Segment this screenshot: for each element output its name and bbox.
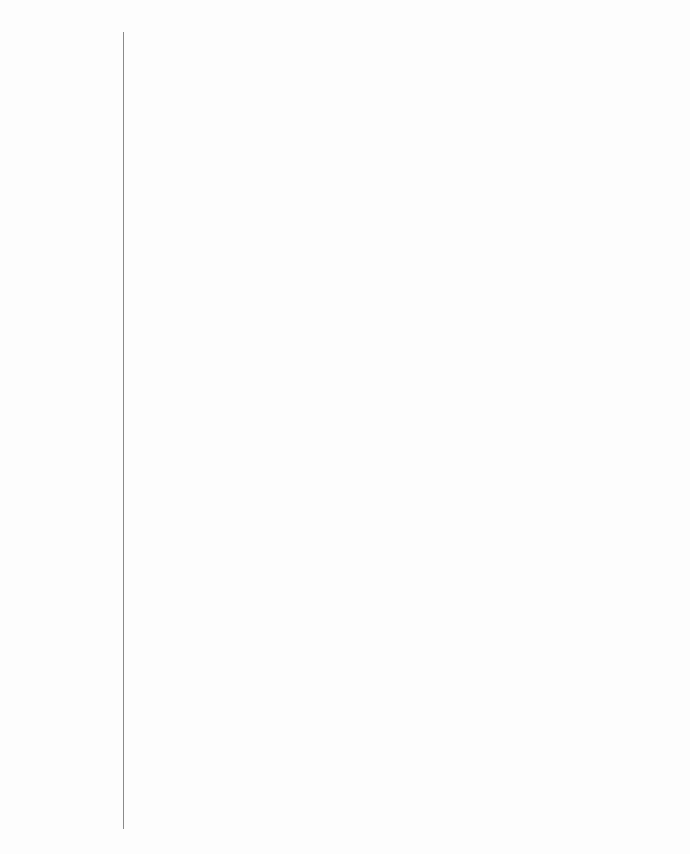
- lined-paper-sheet: [0, 0, 690, 854]
- margin-line: [123, 32, 124, 829]
